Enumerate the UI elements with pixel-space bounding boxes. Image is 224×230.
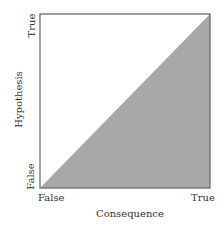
shaded-triangle [40,14,210,188]
x-axis-label: Consequence [96,208,164,219]
x-tick-false: False [38,192,64,203]
y-tick-false: False [25,163,36,189]
x-tick-true: True [191,192,215,203]
y-axis-label: Hypothesis [13,71,24,128]
y-tick-true: True [26,14,37,38]
